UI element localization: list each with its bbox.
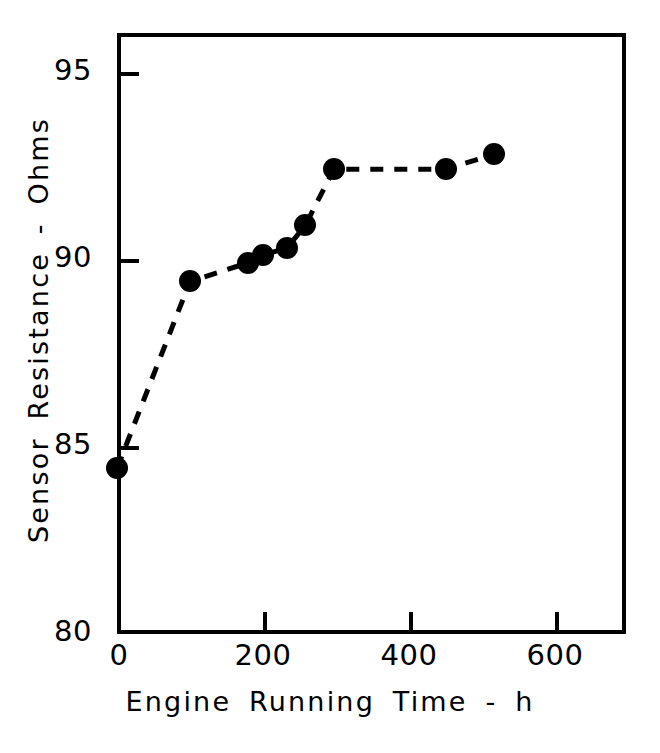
y-axis-title: Sensor Resistance - Ohms xyxy=(25,117,52,543)
x-tick-mark xyxy=(263,612,267,634)
y-tick-mark xyxy=(117,446,139,450)
plot-area-frame xyxy=(117,33,626,634)
y-tick-mark xyxy=(117,259,139,263)
x-tick-label-200: 200 xyxy=(208,641,318,670)
x-axis-title: Engine Running Time - h xyxy=(0,688,660,715)
x-tick-label-0: 0 xyxy=(64,641,174,670)
y-tick-mark xyxy=(117,72,139,76)
chart-figure: 95 90 85 80 0 200 400 600 Engine Running… xyxy=(0,0,660,753)
x-tick-mark xyxy=(555,612,559,634)
y-axis-title-container: Sensor Resistance - Ohms xyxy=(8,0,68,660)
x-tick-label-600: 600 xyxy=(500,641,610,670)
x-tick-mark xyxy=(409,612,413,634)
x-tick-label-400: 400 xyxy=(354,641,464,670)
